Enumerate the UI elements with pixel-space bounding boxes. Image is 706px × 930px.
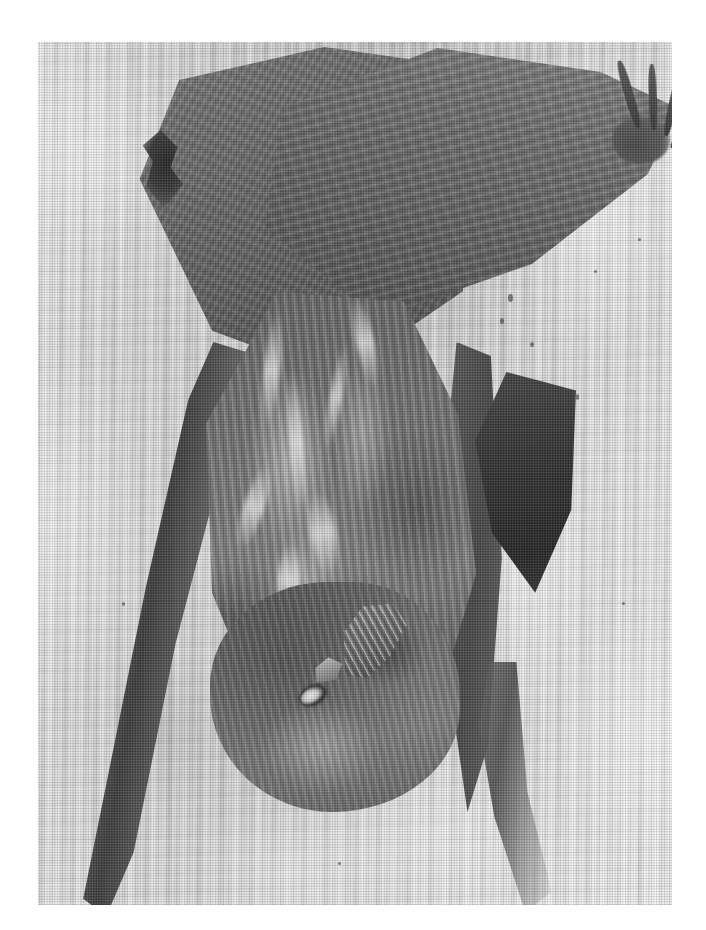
page-canvas (0, 0, 706, 930)
photograph-plate (38, 42, 672, 905)
edge-vignette (38, 42, 672, 905)
